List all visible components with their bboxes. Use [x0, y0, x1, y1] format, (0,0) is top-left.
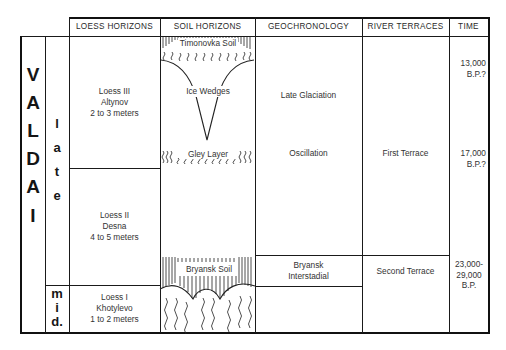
- geochron-line: Bryansk: [294, 260, 324, 271]
- time-value: 23,000-: [449, 259, 489, 270]
- stage-letter: V: [21, 64, 45, 86]
- header-time: TIME: [449, 17, 488, 36]
- loess-thickness: 2 to 3 meters: [90, 108, 138, 119]
- time-value: 29,000: [449, 270, 489, 281]
- stage-letter: I: [21, 205, 45, 227]
- header-river-terraces: RIVER TERRACES: [362, 17, 449, 36]
- substage-letter: e: [45, 188, 69, 203]
- loess-name: Loess II: [100, 210, 129, 221]
- geochron-late-glaciation: Late Glaciation: [255, 88, 362, 102]
- header-soil-horizons: SOIL HORIZONS: [160, 17, 255, 36]
- loess-horizon-2: Loess II Desna 4 to 5 meters: [69, 168, 160, 285]
- ice-wedge-outline: [161, 60, 254, 140]
- soil-label-ice-wedges: Ice Wedges: [180, 86, 236, 97]
- soil-profile-illustration: [160, 36, 255, 333]
- time-qualifier: B.P.?: [449, 69, 486, 80]
- soil-label-gley-layer: Gley Layer: [181, 149, 235, 159]
- loess-site: Altynov: [101, 97, 128, 108]
- stage-letter: A: [21, 92, 45, 114]
- geochron-oscillation: Oscillation: [255, 146, 362, 160]
- loess-site: Desna: [103, 221, 127, 232]
- river-terrace-second: Second Terrace: [362, 264, 449, 278]
- stage-letter: A: [21, 176, 45, 198]
- soil-label-timonovka: Timonovka Soil: [178, 38, 238, 49]
- bryansk-wavy-lines: [165, 296, 252, 334]
- stage-letter: L: [21, 120, 45, 142]
- loess-name: Loess III: [99, 86, 130, 97]
- substage-letter: i: [45, 301, 69, 315]
- loess-thickness: 1 to 2 meters: [90, 314, 138, 325]
- time-value: 13,000: [449, 58, 486, 69]
- timonovka-wavy-marks: [163, 52, 251, 61]
- time-value: 17,000: [449, 148, 486, 159]
- stage-letter: D: [21, 148, 45, 170]
- substage-letter: d.: [45, 315, 69, 329]
- loess-name: Loess I: [101, 292, 128, 303]
- header-loess-horizons: LOESS HORIZONS: [69, 17, 160, 36]
- river-terrace-first: First Terrace: [362, 146, 449, 160]
- substage-letter: l: [45, 116, 69, 131]
- substage-letter: a: [45, 140, 69, 155]
- time-13000: 13,000 B.P.?: [449, 58, 486, 79]
- geochron-bryansk-interstadial: Bryansk Interstadial: [255, 257, 362, 285]
- soil-label-bryansk-soil: Bryansk Soil: [183, 264, 235, 275]
- time-qualifier: B.P.?: [449, 159, 486, 170]
- loess-horizon-1: Loess I Khotylevo 1 to 2 meters: [69, 285, 160, 332]
- geochron-line: Interstadial: [288, 271, 329, 282]
- substage-letter: t: [45, 164, 69, 179]
- loess-thickness: 4 to 5 meters: [90, 232, 138, 243]
- header-geochronology: GEOCHRONOLOGY: [255, 17, 362, 36]
- time-23000-29000: 23,000- 29,000 B.P.: [449, 259, 489, 291]
- substage-letter: m: [45, 287, 69, 301]
- time-qualifier: B.P.: [449, 280, 489, 291]
- time-17000: 17,000 B.P.?: [449, 148, 486, 169]
- loess-horizon-3: Loess III Altynov 2 to 3 meters: [69, 36, 160, 168]
- loess-site: Khotylevo: [96, 303, 132, 314]
